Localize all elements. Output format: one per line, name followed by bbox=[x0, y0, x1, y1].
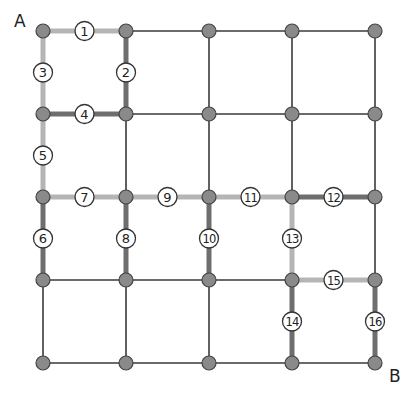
grid-node bbox=[285, 107, 299, 121]
svg-text:7: 7 bbox=[80, 190, 88, 205]
grid-node bbox=[202, 273, 216, 287]
grid-node bbox=[202, 107, 216, 121]
edge-badge-7: 7 bbox=[75, 188, 94, 207]
svg-text:12: 12 bbox=[327, 191, 341, 205]
svg-text:8: 8 bbox=[122, 231, 130, 246]
grid-node bbox=[202, 356, 216, 370]
grid-node bbox=[119, 190, 133, 204]
grid-node bbox=[368, 356, 382, 370]
grid-node bbox=[202, 190, 216, 204]
edge-badge-5: 5 bbox=[34, 146, 53, 165]
grid-node bbox=[368, 273, 382, 287]
grid-node bbox=[36, 107, 50, 121]
grid-node bbox=[119, 356, 133, 370]
grid-node bbox=[285, 24, 299, 38]
svg-text:2: 2 bbox=[122, 65, 130, 80]
svg-text:14: 14 bbox=[285, 315, 299, 329]
edge-badge-16: 16 bbox=[366, 312, 385, 331]
grid-node bbox=[285, 356, 299, 370]
svg-text:6: 6 bbox=[39, 231, 47, 246]
grid-diagram: 12345678910111213141516 bbox=[0, 0, 418, 400]
edge-badge-1: 1 bbox=[75, 22, 94, 41]
svg-text:13: 13 bbox=[285, 232, 299, 246]
grid-node bbox=[36, 273, 50, 287]
end-label-b: B bbox=[389, 366, 401, 386]
svg-text:5: 5 bbox=[39, 148, 47, 163]
grid-node bbox=[285, 273, 299, 287]
grid-node bbox=[368, 24, 382, 38]
grid-node bbox=[119, 107, 133, 121]
svg-text:16: 16 bbox=[368, 315, 382, 329]
grid-node bbox=[36, 356, 50, 370]
edge-badge-10: 10 bbox=[200, 229, 219, 248]
svg-text:9: 9 bbox=[163, 190, 171, 205]
grid-node bbox=[119, 24, 133, 38]
edge-badge-3: 3 bbox=[34, 63, 53, 82]
grid-node bbox=[36, 190, 50, 204]
edge-badge-12: 12 bbox=[324, 188, 343, 207]
grid-node bbox=[285, 190, 299, 204]
grid-node bbox=[368, 107, 382, 121]
edge-badge-13: 13 bbox=[283, 229, 302, 248]
grid-node bbox=[368, 190, 382, 204]
svg-text:4: 4 bbox=[80, 107, 88, 122]
svg-text:11: 11 bbox=[244, 191, 258, 205]
grid-node bbox=[202, 24, 216, 38]
grid-node bbox=[119, 273, 133, 287]
edge-badge-6: 6 bbox=[34, 229, 53, 248]
svg-text:15: 15 bbox=[327, 274, 341, 288]
svg-text:3: 3 bbox=[39, 65, 47, 80]
edge-badge-15: 15 bbox=[324, 271, 343, 290]
svg-text:10: 10 bbox=[202, 232, 216, 246]
edge-badge-14: 14 bbox=[283, 312, 302, 331]
edge-badge-11: 11 bbox=[241, 188, 260, 207]
edge-badge-4: 4 bbox=[75, 105, 94, 124]
svg-text:1: 1 bbox=[80, 24, 88, 39]
edge-badge-8: 8 bbox=[117, 229, 136, 248]
edge-badge-9: 9 bbox=[158, 188, 177, 207]
start-label-a: A bbox=[14, 11, 26, 31]
grid-node bbox=[36, 24, 50, 38]
edge-badge-2: 2 bbox=[117, 63, 136, 82]
